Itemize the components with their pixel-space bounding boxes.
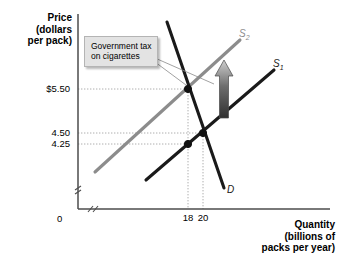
curve-label-s1-text: S	[273, 58, 280, 69]
y-axis-title: Price (dollars per pack)	[0, 12, 72, 47]
curve-label-s2-subscript: 2	[246, 34, 250, 41]
curve-label-s2-text: S	[239, 28, 246, 39]
origin-label: 0	[57, 213, 62, 224]
callout-government-tax: Government tax on cigarettes	[84, 36, 158, 67]
curve-label-s1: S1	[273, 58, 284, 71]
curve-d	[167, 22, 224, 188]
supply-demand-figure: Price (dollars per pack) Quantity (billi…	[0, 0, 337, 261]
point-producer-net-price	[184, 140, 191, 147]
curve-label-s2: S2	[239, 28, 250, 41]
x-tick-label-20: 20	[194, 212, 212, 223]
point-equilibrium-after-tax	[184, 85, 191, 92]
x-axis-title: Quantity (billions of packs per year)	[233, 219, 335, 254]
point-equilibrium-before-tax	[199, 129, 206, 136]
curve-label-s1-subscript: 1	[280, 64, 284, 71]
y-tick-label-450: 4.50	[22, 127, 70, 138]
curve-s1	[146, 70, 274, 180]
y-tick-label-425: 4.25	[22, 138, 70, 149]
curve-label-d: D	[227, 184, 234, 195]
y-tick-label-550: $5.50	[22, 83, 70, 94]
